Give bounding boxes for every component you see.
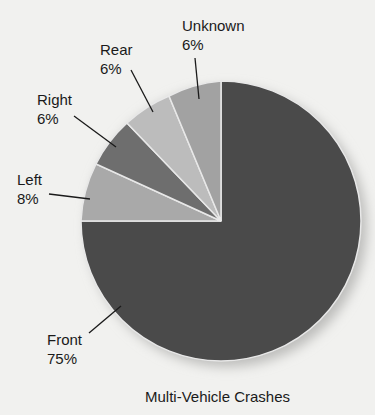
label-right-pct: 6% <box>37 109 72 128</box>
label-rear: Rear 6% <box>100 40 133 78</box>
label-rear-pct: 6% <box>100 59 133 78</box>
label-right: Right 6% <box>37 90 72 128</box>
label-front-name: Front <box>47 330 82 349</box>
label-rear-name: Rear <box>100 40 133 59</box>
label-right-name: Right <box>37 90 72 109</box>
label-unknown-pct: 6% <box>182 35 245 54</box>
label-left-name: Left <box>17 170 42 189</box>
label-unknown-name: Unknown <box>182 16 245 35</box>
label-left: Left 8% <box>17 170 42 208</box>
label-front: Front 75% <box>47 330 82 368</box>
label-front-pct: 75% <box>47 349 82 368</box>
label-left-pct: 8% <box>17 189 42 208</box>
label-unknown: Unknown 6% <box>182 16 245 54</box>
chart-title: Multi-Vehicle Crashes <box>0 388 375 405</box>
